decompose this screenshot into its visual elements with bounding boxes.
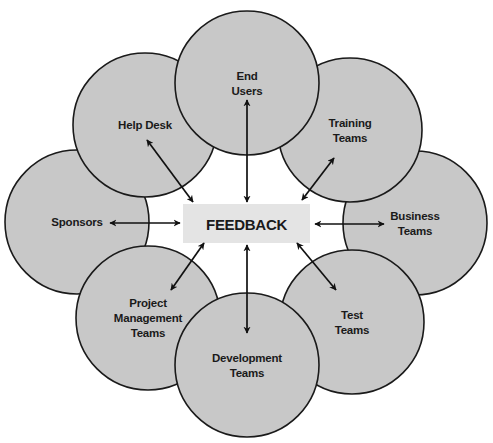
node-label: Teams (230, 367, 265, 379)
node-label: Users (232, 85, 263, 97)
feedback-diagram: SponsorsBusinessTeamsHelp DeskTrainingTe… (0, 0, 493, 443)
node-label: Teams (333, 132, 368, 144)
node-label: End (236, 70, 257, 82)
node-label: Help Desk (118, 119, 173, 131)
node-label: Training (328, 117, 371, 129)
feedback-center: FEEDBACK (183, 204, 310, 243)
node-label: Management (114, 312, 183, 324)
feedback-label: FEEDBACK (206, 216, 287, 233)
node-label: Teams (131, 327, 166, 339)
node-label: Development (212, 352, 282, 364)
node-label: Project (129, 297, 167, 309)
node-label: Teams (335, 324, 370, 336)
node-label: Business (390, 210, 440, 222)
node-label: Teams (398, 225, 433, 237)
node-label: Test (341, 309, 363, 321)
node-label: Sponsors (51, 216, 102, 228)
